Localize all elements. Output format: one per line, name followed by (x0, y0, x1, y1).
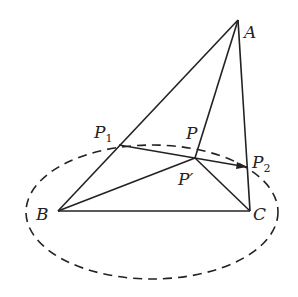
label-P2: P2 (251, 152, 270, 175)
segment-AP-prime (195, 20, 238, 158)
label-P1: P1 (93, 122, 112, 145)
geometry-diagram: A B C P P′ P1 P2 (0, 0, 298, 297)
label-B: B (35, 204, 49, 224)
label-A: A (242, 22, 256, 42)
label-P: P (185, 123, 198, 143)
label-P-prime: P′ (177, 169, 193, 189)
segment-P1P2 (119, 145, 247, 167)
label-C: C (253, 204, 266, 224)
segment-AB (58, 20, 238, 211)
arrow-head-P2 (236, 162, 247, 169)
segment-BP-prime (58, 158, 195, 211)
segment-AC (238, 20, 250, 211)
